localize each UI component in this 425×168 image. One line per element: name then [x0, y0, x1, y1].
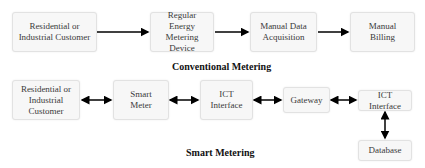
box-label: Manual Billing — [365, 21, 400, 43]
manual-billing-box: Manual Billing — [350, 12, 415, 52]
box-label: ICT Interface — [367, 90, 403, 112]
box-label: Manual Data Acquisition — [259, 21, 308, 43]
conventional-metering-title: Conventional Metering — [172, 61, 271, 72]
conventional-customer-box: Residential or Industrial Customer — [12, 12, 97, 52]
box-label: Regular Energy Metering Device — [154, 10, 210, 54]
box-label: Database — [369, 145, 402, 156]
gateway-box: Gateway — [283, 87, 330, 113]
box-label: Gateway — [291, 95, 323, 106]
ict-interface-box-2: ICT Interface — [358, 90, 412, 111]
database-box: Database — [358, 140, 412, 161]
box-label: Residential or Industrial Customer — [13, 21, 96, 43]
manual-data-acquisition-box: Manual Data Acquisition — [250, 12, 317, 52]
box-label: Smart Meter — [126, 89, 156, 111]
box-label: ICT Interface — [207, 89, 246, 111]
ict-interface-box-1: ICT Interface — [200, 80, 253, 120]
smart-meter-box: Smart Meter — [113, 80, 169, 120]
box-label: Residential or Industrial Customer — [19, 84, 73, 117]
smart-metering-title: Smart Metering — [186, 147, 255, 158]
regular-meter-box: Regular Energy Metering Device — [150, 12, 214, 52]
smart-customer-box: Residential or Industrial Customer — [12, 80, 80, 120]
